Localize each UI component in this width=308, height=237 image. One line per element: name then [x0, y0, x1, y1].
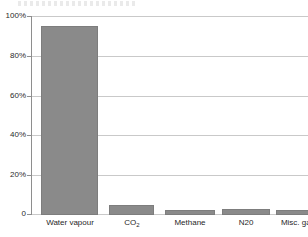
- x-axis-label-misc-gases: Misc. gases: [271, 217, 308, 229]
- x-axis-label-co2-base: CO: [124, 218, 136, 227]
- y-axis-label-60: 60%: [0, 92, 26, 100]
- scan-artifact: [18, 1, 138, 6]
- y-axis-label-40: 40%: [0, 131, 26, 139]
- y-axis-label-20: 20%: [0, 171, 26, 179]
- x-axis-label-water-vapour: Water vapour: [31, 217, 109, 229]
- y-axis-label-80: 80%: [0, 52, 26, 60]
- bars-layer: [31, 16, 308, 215]
- x-axis-labels: Water vapour CO2 Methane N20 Misc. gases: [31, 217, 308, 233]
- bar-co2: [109, 205, 154, 215]
- y-axis-label-100: 100%: [0, 12, 26, 20]
- bar-misc-gases: [276, 210, 308, 215]
- x-axis-label-co2-subscript: 2: [136, 222, 139, 228]
- x-axis-label-n2o: N20: [219, 217, 273, 229]
- x-axis-label-co2: CO2: [105, 217, 159, 229]
- x-axis-label-methane: Methane: [161, 217, 219, 229]
- y-axis-label-0: 0: [0, 210, 26, 218]
- bar-n2o: [222, 209, 270, 215]
- bar-methane: [165, 210, 215, 215]
- bar-water-vapour: [41, 26, 98, 215]
- bar-chart: 100% 80% 60% 40% 20% 0 Water vapour CO2 …: [0, 0, 308, 237]
